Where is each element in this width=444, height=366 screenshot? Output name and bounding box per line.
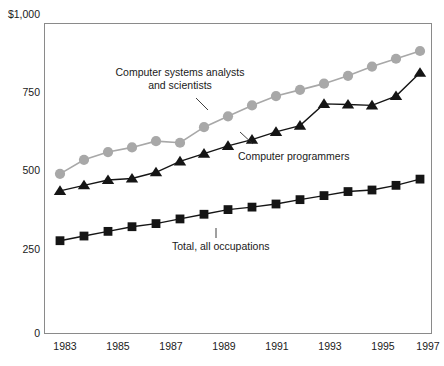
annotation-analysts-line1: Computer systems analysts [90, 66, 270, 79]
data-point [150, 167, 162, 177]
data-point [152, 219, 161, 228]
x-tick-label-1995: 1995 [360, 341, 406, 352]
data-point [103, 147, 113, 157]
data-point [271, 91, 281, 101]
data-point [343, 71, 353, 81]
annotation-total-all-occupations: Total, all occupations [172, 240, 269, 253]
data-point [176, 215, 185, 224]
data-point [200, 210, 209, 219]
data-point [247, 100, 257, 110]
data-point [344, 187, 353, 196]
data-point [248, 203, 257, 212]
x-tick-label-1997: 1997 [405, 341, 444, 352]
data-point [127, 142, 137, 152]
data-point [55, 169, 65, 179]
data-point [272, 200, 281, 209]
x-tick-label-1989: 1989 [201, 341, 247, 352]
data-point [391, 54, 401, 64]
data-point [320, 191, 329, 200]
data-point [368, 186, 377, 195]
series-layer [0, 0, 444, 366]
x-tick-label-1991: 1991 [254, 341, 300, 352]
data-point [296, 195, 305, 204]
data-point [80, 232, 89, 241]
data-point [319, 79, 329, 89]
employment-line-chart: $1,000 750 500 250 0 1983 1985 1987 1989… [0, 0, 444, 366]
data-point [224, 205, 233, 214]
data-point [416, 175, 425, 184]
data-point [56, 236, 65, 245]
series-square [56, 175, 425, 245]
data-point [175, 138, 185, 148]
annotation-analysts-line2: and scientists [90, 79, 270, 92]
data-point [392, 181, 401, 190]
data-point [318, 98, 330, 108]
data-point [223, 111, 233, 121]
x-tick-label-1983: 1983 [42, 341, 88, 352]
x-tick-label-1987: 1987 [148, 341, 194, 352]
data-point [199, 122, 209, 132]
data-point [104, 227, 113, 236]
x-tick-label-1985: 1985 [95, 341, 141, 352]
x-tick-label-1993: 1993 [307, 341, 353, 352]
data-point [128, 222, 137, 231]
data-point [151, 136, 161, 146]
data-point [414, 67, 426, 77]
annotation-computer-systems-analysts: Computer systems analysts and scientists [90, 66, 270, 91]
data-point [295, 85, 305, 95]
data-point [415, 46, 425, 56]
data-point [79, 155, 89, 165]
annotation-leader-line [196, 98, 208, 110]
annotation-computer-programmers: Computer programmers [238, 150, 349, 163]
data-point [367, 61, 377, 71]
